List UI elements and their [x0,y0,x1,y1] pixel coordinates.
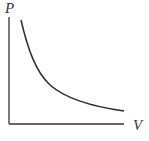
pv-diagram: P V [0,0,149,141]
x-axis-label: V [133,117,144,133]
y-axis-label: P [4,0,14,16]
pv-curve [21,20,124,111]
